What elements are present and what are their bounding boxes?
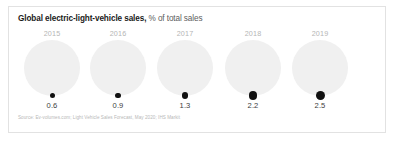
bubble-column-2015: 2015 0.6: [18, 29, 86, 111]
bubble-column-2018: 2018 2.2: [219, 29, 287, 111]
bubble-background-2017: [157, 40, 213, 96]
source-note: Source: Ev-volumes.com; Light Vehicle Sa…: [18, 115, 180, 120]
value-label-2018: 2.2: [219, 101, 287, 110]
chart-title-subtitle: % of total sales: [149, 14, 203, 23]
bubble-column-2017: 2017 1.3: [151, 29, 219, 111]
chart-frame: Global electric-light-vehicle sales, % o…: [8, 6, 386, 133]
year-label-2016: 2016: [84, 29, 152, 38]
value-dot-2017: [182, 92, 189, 99]
bubble-background-2019: [292, 40, 348, 96]
year-label-2017: 2017: [151, 29, 219, 38]
value-label-2016: 0.9: [84, 101, 152, 110]
bubble-background-2016: [90, 40, 146, 96]
value-dot-2019: [316, 91, 325, 100]
year-label-2019: 2019: [286, 29, 354, 38]
chart-title-main: Global electric-light-vehicle sales,: [18, 14, 146, 23]
value-label-2015: 0.6: [18, 101, 86, 110]
bubble-background-2015: [24, 40, 80, 96]
value-label-2019: 2.5: [286, 101, 354, 110]
chart-title: Global electric-light-vehicle sales, % o…: [18, 14, 202, 24]
plot-area: 2015 0.6 2016 0.9 2017 1.3 2018 2.2 2019: [18, 29, 376, 111]
bubble-background-2018: [225, 40, 281, 96]
year-label-2018: 2018: [219, 29, 287, 38]
value-dot-2016: [115, 93, 121, 99]
year-label-2015: 2015: [18, 29, 86, 38]
value-dot-2018: [249, 91, 257, 99]
bubble-column-2016: 2016 0.9: [84, 29, 152, 111]
bubble-column-2019: 2019 2.5: [286, 29, 354, 111]
value-label-2017: 1.3: [151, 101, 219, 110]
value-dot-2015: [50, 93, 55, 98]
